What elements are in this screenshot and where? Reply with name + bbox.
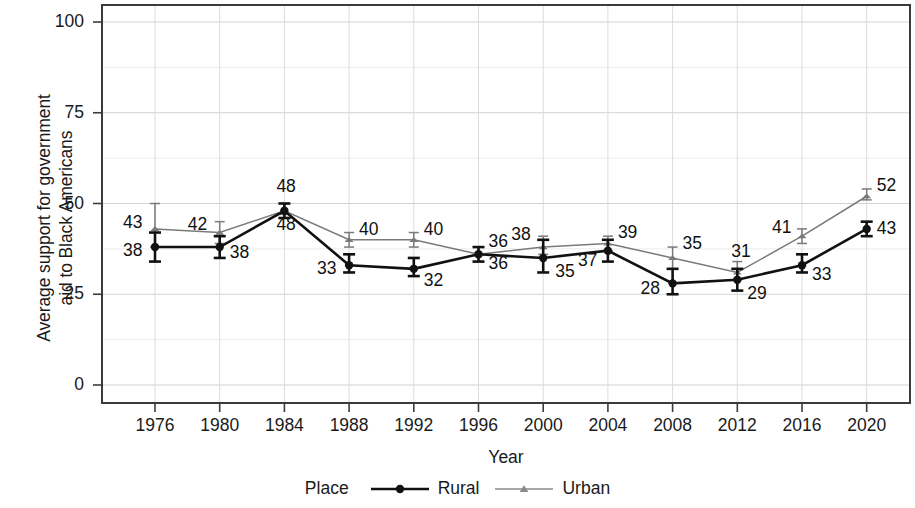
y-tick-label: 0	[24, 374, 84, 395]
y-tick-label: 75	[24, 102, 84, 123]
x-tick-label: 2020	[832, 415, 902, 436]
data-label-urban: 35	[683, 233, 702, 254]
data-label-rural: 33	[317, 258, 336, 279]
rural-legend-marker-icon	[369, 481, 431, 497]
data-label-rural: 48	[276, 214, 295, 235]
chart-container: Average support for government aid to Bl…	[0, 0, 915, 508]
data-label-rural: 32	[424, 270, 443, 291]
data-label-rural: 36	[489, 253, 508, 274]
data-label-rural: 29	[747, 283, 766, 304]
x-tick-label: 2012	[702, 415, 772, 436]
x-tick-label: 1996	[444, 415, 514, 436]
data-label-urban: 40	[359, 219, 378, 240]
chart-legend: Place Rural Urban	[0, 478, 915, 499]
x-axis-title: Year	[102, 447, 910, 468]
legend-item-rural[interactable]: Rural	[369, 478, 480, 499]
y-axis-title: Average support for government aid to Bl…	[33, 8, 77, 428]
y-tick-label: 50	[24, 193, 84, 214]
legend-label-urban: Urban	[562, 478, 610, 499]
x-tick-label: 2016	[767, 415, 837, 436]
data-label-rural: 33	[812, 264, 831, 285]
data-label-urban: 31	[731, 241, 750, 262]
x-tick-label: 1980	[185, 415, 255, 436]
data-label-urban: 42	[188, 214, 207, 235]
data-label-urban: 40	[424, 219, 443, 240]
data-label-urban: 48	[276, 176, 295, 197]
y-tick-label: 25	[24, 283, 84, 304]
data-label-rural: 37	[578, 250, 597, 271]
y-tick-label: 100	[24, 11, 84, 32]
data-label-rural: 38	[123, 240, 142, 261]
x-tick-label: 2008	[638, 415, 708, 436]
x-tick-label: 1984	[249, 415, 319, 436]
data-label-rural: 38	[230, 242, 249, 263]
axis-ticks	[93, 22, 867, 412]
data-label-urban: 41	[772, 217, 791, 238]
data-label-urban: 38	[511, 224, 530, 245]
data-label-urban: 52	[877, 175, 896, 196]
x-tick-label: 2000	[508, 415, 578, 436]
urban-legend-marker-icon	[493, 481, 555, 497]
y-axis-title-line-1: Average support for government	[33, 8, 55, 428]
data-label-rural: 35	[555, 261, 574, 282]
data-label-rural: 28	[641, 278, 660, 299]
gridlines	[102, 5, 910, 403]
data-label-urban: 39	[618, 222, 637, 243]
data-label-urban: 43	[123, 212, 142, 233]
x-tick-label: 1988	[314, 415, 384, 436]
legend-item-urban[interactable]: Urban	[493, 478, 610, 499]
data-label-urban: 36	[489, 231, 508, 252]
x-tick-label: 2004	[573, 415, 643, 436]
x-tick-label: 1992	[379, 415, 449, 436]
x-tick-label: 1976	[120, 415, 190, 436]
y-axis-title-line-2: aid to Black Americans	[55, 8, 77, 428]
data-label-rural: 43	[877, 218, 896, 239]
legend-title: Place	[305, 478, 349, 499]
legend-label-rural: Rural	[438, 478, 480, 499]
